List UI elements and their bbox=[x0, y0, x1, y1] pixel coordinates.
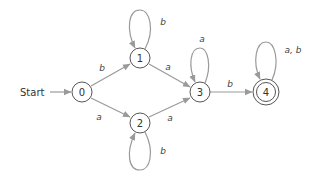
state-label: 0 bbox=[79, 87, 85, 98]
state-label: 2 bbox=[137, 118, 143, 129]
edge-label-3-3: a bbox=[199, 34, 205, 44]
state-2: 2 bbox=[130, 113, 150, 133]
state-label: 1 bbox=[137, 53, 143, 64]
edge-label-2-3: a bbox=[167, 113, 173, 123]
state-3: 3 bbox=[190, 82, 210, 102]
edge-0-1 bbox=[91, 64, 130, 86]
loop-1 bbox=[129, 10, 150, 49]
state-label: 3 bbox=[197, 87, 203, 98]
state-label: 4 bbox=[263, 87, 269, 98]
edge-label-4-4: a, b bbox=[285, 45, 302, 55]
automaton-diagram: Start b a b a b a a b a, b 0 1 2 3 4 bbox=[0, 0, 314, 180]
edge-label-3-4: b bbox=[227, 79, 233, 89]
edge-label-0-1: b bbox=[99, 63, 105, 73]
loop-3 bbox=[191, 48, 209, 83]
edge-label-1-3: a bbox=[165, 62, 171, 72]
state-1: 1 bbox=[130, 48, 150, 68]
state-4-accepting: 4 bbox=[253, 79, 279, 105]
edge-label-0-2: a bbox=[96, 112, 102, 122]
edge-label-2-2: b bbox=[160, 146, 166, 156]
state-0: 0 bbox=[72, 82, 92, 102]
edge-label-1-1: b bbox=[160, 17, 166, 27]
start-label: Start bbox=[20, 87, 45, 98]
loop-4 bbox=[256, 42, 276, 80]
loop-2 bbox=[129, 132, 150, 170]
